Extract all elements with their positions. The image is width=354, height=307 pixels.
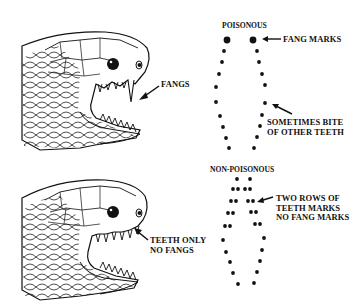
- fangs-label-line: FANGS: [161, 80, 190, 90]
- snake-bite-diagram: FANGS TEETH ONLY NO FANGS POISONOUS FANG…: [0, 0, 354, 307]
- fangs-arrow-icon: [139, 86, 159, 100]
- teeth-only-label-line-2: NO FANGS: [150, 246, 206, 256]
- non-poisonous-bite-pattern: [221, 177, 266, 286]
- fang-marks-label: FANG MARKS: [283, 35, 341, 45]
- two-rows-label: TWO ROWS OF TEETH MARKS NO FANG MARKS: [276, 194, 349, 223]
- teeth-only-label: TEETH ONLY NO FANGS: [150, 236, 206, 255]
- fang-marks-label-line: FANG MARKS: [283, 35, 341, 45]
- non-poisonous-snake-head-icon: [22, 180, 147, 300]
- teeth-only-arrow-icon: [134, 228, 148, 240]
- poisonous-bite-pattern: [214, 37, 267, 150]
- snake-illustrations: [0, 0, 354, 307]
- sometimes-bite-label: SOMETIMES BITE OF OTHER TEETH: [267, 118, 344, 137]
- fang-marks-arrow-icon: [262, 36, 281, 42]
- two-rows-arrow-icon: [257, 197, 273, 203]
- non-poisonous-title: NON-POISONOUS: [210, 165, 274, 175]
- other-teeth-arrow-icon: [272, 104, 292, 114]
- poisonous-snake-head-icon: [22, 32, 149, 150]
- two-rows-line-3: NO FANG MARKS: [276, 213, 349, 223]
- poisonous-title: POISONOUS: [222, 21, 267, 31]
- sometimes-bite-line-2: OF OTHER TEETH: [267, 128, 344, 138]
- fangs-label: FANGS: [161, 80, 190, 90]
